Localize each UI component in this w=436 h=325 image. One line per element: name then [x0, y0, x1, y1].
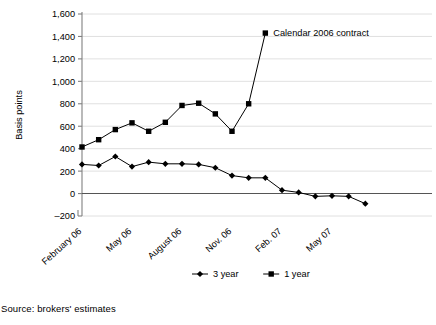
source-note: Source: brokers' estimates [1, 303, 116, 314]
x-tick-label: August 06 [146, 226, 183, 261]
data-point-1-year [129, 120, 134, 125]
legend-label: 3 year [213, 269, 239, 279]
series-markers-group [79, 30, 369, 206]
data-point-3-year [296, 189, 302, 195]
series-line-3-year [82, 157, 365, 204]
data-point-3-year [146, 159, 152, 165]
legend-label: 1 year [284, 269, 310, 279]
data-point-1-year [263, 30, 268, 35]
x-axis-ticks-group: February 06May 06August 06Nov. 06Feb. 07… [40, 226, 334, 267]
x-tick-label: Nov. 06 [204, 226, 234, 254]
data-point-1-year [196, 101, 201, 106]
x-tick-label: May 07 [304, 226, 333, 254]
data-point-3-year [312, 193, 318, 199]
data-point-1-year [213, 111, 218, 116]
data-point-3-year [112, 153, 118, 159]
data-point-3-year [229, 173, 235, 179]
data-point-3-year [362, 201, 368, 207]
y-tick-label: 400 [60, 144, 75, 154]
y-tick-label: 1,600 [52, 9, 75, 19]
y-tick-label: 1,200 [52, 54, 75, 64]
legend-marker-square [269, 271, 274, 276]
data-point-3-year [96, 162, 102, 168]
y-tick-label: 0 [70, 189, 75, 199]
data-point-3-year [212, 165, 218, 171]
data-point-3-year [129, 164, 135, 170]
x-tick-label: Feb. 07 [253, 226, 283, 254]
y-axis-title: Basis points [14, 90, 24, 140]
data-point-1-year [229, 129, 234, 134]
gridlines-group [82, 14, 432, 216]
data-point-1-year [179, 103, 184, 108]
data-point-3-year [196, 161, 202, 167]
chart-canvas: –20002004006008001,0001,2001,4001,600 Fe… [0, 0, 436, 290]
data-point-1-year [246, 101, 251, 106]
series-line-1-year [82, 33, 265, 147]
data-point-1-year [96, 137, 101, 142]
annotation-group: Calendar 2006 contract [273, 28, 369, 38]
y-tick-label: 800 [60, 99, 75, 109]
y-axis-ticks-group: –20002004006008001,0001,2001,4001,600 [52, 9, 82, 221]
data-point-1-year [163, 120, 168, 125]
y-tick-label: 1,400 [52, 32, 75, 42]
data-point-3-year [79, 161, 85, 167]
line-chart: –20002004006008001,0001,2001,4001,600 Fe… [0, 0, 436, 290]
y-axis-title-group: Basis points [14, 90, 24, 140]
figure-container: –20002004006008001,0001,2001,4001,600 Fe… [0, 0, 436, 325]
y-tick-label: 1,000 [52, 77, 75, 87]
data-point-3-year [346, 193, 352, 199]
data-point-3-year [246, 175, 252, 181]
data-point-1-year [79, 144, 84, 149]
x-tick-label: February 06 [40, 226, 84, 267]
chart-annotation: Calendar 2006 contract [273, 28, 369, 38]
data-point-3-year [179, 161, 185, 167]
data-point-1-year [113, 127, 118, 132]
x-tick-label: May 06 [104, 226, 133, 254]
legend-group: 3 year1 year [192, 269, 310, 279]
legend-marker-diamond [197, 271, 203, 277]
y-tick-label: –200 [55, 211, 75, 221]
y-tick-label: 600 [60, 122, 75, 132]
data-point-1-year [146, 129, 151, 134]
y-tick-label: 200 [60, 167, 75, 177]
data-point-3-year [162, 161, 168, 167]
